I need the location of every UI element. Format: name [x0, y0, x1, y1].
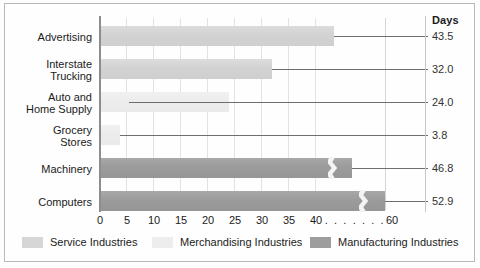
gridline-15 [180, 18, 181, 210]
category-label-advertising: Advertising [38, 31, 92, 43]
plot-area [100, 18, 420, 210]
y-axis-spine [99, 16, 101, 212]
category-label-interstate-trucking: Interstate Trucking [46, 58, 92, 82]
gridline-40 [315, 18, 316, 210]
gridline-10 [153, 18, 154, 210]
legend-item-service-industries[interactable]: Service Industries [22, 236, 137, 248]
value-label-computers: 52.9 [432, 195, 453, 207]
bar-advertising[interactable] [100, 26, 334, 46]
value-label-grocery-stores: 3.8 [432, 129, 447, 141]
category-label-machinery: Machinery [41, 163, 92, 175]
category-label-computers: Computers [38, 196, 92, 208]
legend-swatch-manufacturing-industries [310, 237, 331, 248]
value-label-interstate-trucking: 32.0 [432, 63, 453, 75]
gridline-25 [234, 18, 235, 210]
category-label-auto-and-home-supply: Auto and Home Supply [26, 91, 92, 115]
xtick-30: 30 [256, 214, 268, 226]
legend-label-merchandising-industries: Merchandising Industries [180, 236, 302, 248]
bar-computers[interactable] [100, 191, 385, 211]
legend-label-manufacturing-industries: Manufacturing Industries [338, 236, 458, 248]
gridline-35 [288, 18, 289, 210]
axis-break-notch-icon [359, 190, 372, 212]
gridline-5 [126, 18, 127, 210]
axis-break-dots: . . . . . . . [325, 214, 386, 226]
bar-grocery-stores[interactable] [100, 125, 120, 145]
leader-line-computers [385, 201, 428, 202]
bar-interstate-trucking[interactable] [100, 59, 272, 79]
value-label-auto-and-home-supply: 24.0 [432, 96, 453, 108]
leader-line-advertising [334, 36, 428, 37]
chart-container: Advertising Interstate Trucking Auto and… [0, 0, 480, 268]
value-label-machinery: 46.8 [432, 162, 453, 174]
xtick-40: 40 [310, 214, 322, 226]
bar-machinery[interactable] [100, 158, 352, 178]
xtick-15: 15 [175, 214, 187, 226]
leader-line-grocery-stores [120, 135, 428, 136]
value-label-advertising: 43.5 [432, 30, 453, 42]
xtick-0: 0 [97, 214, 103, 226]
category-label-grocery-stores: Grocery Stores [53, 124, 92, 148]
leader-line-machinery [352, 168, 428, 169]
xtick-35: 35 [283, 214, 295, 226]
gridline-20 [207, 18, 208, 210]
legend: Service Industries Merchandising Industr… [0, 236, 480, 254]
days-column-header: Days [432, 14, 459, 26]
legend-item-merchandising-industries[interactable]: Merchandising Industries [152, 236, 302, 248]
xtick-10: 10 [148, 214, 160, 226]
gridline-60 [385, 18, 386, 210]
xtick-25: 25 [229, 214, 241, 226]
legend-item-manufacturing-industries[interactable]: Manufacturing Industries [310, 236, 458, 248]
xtick-20: 20 [202, 214, 214, 226]
leader-line-auto-and-home-supply [129, 102, 428, 103]
xtick-5: 5 [124, 214, 130, 226]
legend-label-service-industries: Service Industries [50, 236, 137, 248]
value-column-rule [425, 16, 426, 212]
x-axis-tick-labels: 0 5 10 15 20 25 30 35 40 . . . . . . . 6… [0, 214, 480, 230]
legend-swatch-service-industries [22, 237, 43, 248]
xtick-60: 60 [386, 214, 398, 226]
axis-break-notch-icon [328, 157, 341, 179]
gridline-30 [261, 18, 262, 210]
leader-line-interstate-trucking [272, 69, 428, 70]
legend-swatch-merchandising-industries [152, 237, 173, 248]
